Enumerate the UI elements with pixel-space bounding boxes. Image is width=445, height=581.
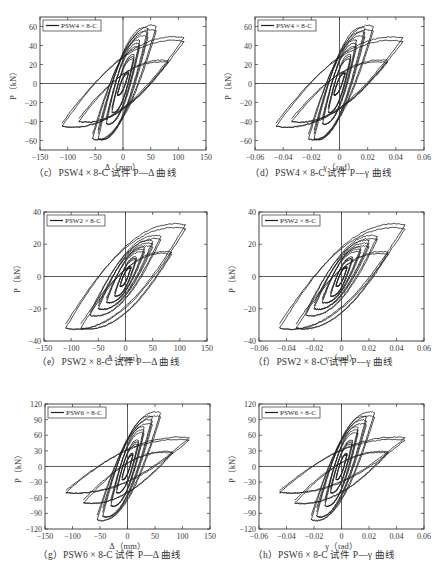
y-tick-label: 40 — [248, 208, 256, 217]
x-tick-label: 0 — [124, 344, 128, 353]
chart-panel-e: −150−100−50050100150−40−2002040Δ（mm）P（kN… — [44, 212, 207, 341]
y-tick-label: −20 — [243, 305, 256, 314]
y-tick-label: 30 — [34, 447, 42, 456]
x-tick-label: 150 — [201, 344, 213, 353]
legend-label: PSW4 × 8-C — [61, 22, 97, 30]
x-tick-label: 0 — [338, 153, 342, 162]
y-tick-label: 0 — [37, 273, 41, 282]
y-tick-label: 0 — [252, 463, 256, 472]
y-tick-label: −30 — [29, 478, 42, 487]
caption-c: （c）PSW4 × 8-C 试件 P—Δ 曲线 — [34, 165, 177, 179]
x-tick-label: −100 — [59, 153, 76, 162]
x-tick-label: 0.04 — [390, 344, 404, 353]
y-tick-label: 20 — [248, 240, 256, 249]
legend: PSW2 × 8-C — [47, 215, 105, 226]
x-tick-label: 100 — [174, 344, 186, 353]
y-tick-label: 40 — [244, 42, 252, 51]
x-tick-label: 0.06 — [417, 153, 431, 162]
x-tick-label: −0.04 — [274, 153, 293, 162]
x-tick-label: 0.06 — [417, 532, 431, 541]
y-tick-label: −60 — [24, 137, 37, 146]
x-tick-label: −0.04 — [277, 532, 296, 541]
x-tick-label: 0.02 — [361, 153, 375, 162]
y-tick-label: 20 — [33, 240, 41, 249]
chart-panel-g: −150−100−50050100150−120−90−60−300306090… — [45, 404, 210, 529]
x-tick-label: −0.04 — [277, 344, 296, 353]
caption-f: （f）PSW2 × 8-C 试件 P—γ 曲线 — [253, 354, 393, 368]
x-tick-label: −0.02 — [305, 532, 324, 541]
y-tick-label: −30 — [243, 478, 256, 487]
x-tick-label: 50 — [149, 344, 157, 353]
caption-d: （d）PSW4 × 8-C 试件 P—γ 曲线 — [250, 165, 392, 179]
x-tick-label: 0 — [121, 153, 125, 162]
legend: PSW4 × 8-C — [43, 20, 101, 31]
y-tick-label: 20 — [29, 61, 37, 70]
y-tick-label: 60 — [34, 431, 42, 440]
y-tick-label: 90 — [248, 416, 256, 425]
y-tick-label: 0 — [252, 273, 256, 282]
y-tick-label: 0 — [38, 463, 42, 472]
y-tick-label: 60 — [248, 431, 256, 440]
y-axis-label: P（kN） — [12, 260, 22, 293]
x-tick-label: −50 — [92, 344, 105, 353]
y-axis-label: P（kN） — [13, 450, 23, 483]
y-tick-label: 90 — [34, 416, 42, 425]
y-axis-label: P（kN） — [223, 67, 233, 100]
x-tick-label: 0 — [340, 344, 344, 353]
x-tick-label: 50 — [147, 153, 155, 162]
y-axis-label: P（kN） — [8, 67, 18, 100]
x-tick-label: 100 — [177, 532, 189, 541]
caption-h: （h）PSW6 × 8-C 试件 P—γ 曲线 — [253, 547, 395, 561]
x-tick-label: 100 — [172, 153, 184, 162]
x-tick-label: −0.02 — [305, 344, 324, 353]
x-tick-label: −100 — [64, 532, 81, 541]
legend-label: PSW4 × 8-C — [276, 22, 312, 30]
legend: PSW2 × 8-C — [262, 215, 320, 226]
x-tick-label: −150 — [32, 153, 49, 162]
y-tick-label: 120 — [244, 400, 256, 409]
chart-panel-d: −0.06−0.04−0.0200.020.040.06−60−40−20020… — [255, 17, 424, 150]
y-tick-label: 40 — [29, 42, 37, 51]
x-tick-label: 150 — [200, 153, 212, 162]
x-tick-label: 150 — [204, 532, 216, 541]
y-tick-label: −40 — [28, 337, 41, 346]
y-tick-label: −60 — [239, 137, 252, 146]
x-tick-label: 0.02 — [362, 344, 376, 353]
legend-label: PSW6 × 8-C — [66, 409, 102, 417]
y-tick-label: 60 — [29, 23, 37, 32]
y-tick-label: −120 — [25, 525, 42, 534]
x-tick-label: −50 — [89, 153, 102, 162]
y-tick-label: −40 — [239, 118, 252, 127]
y-tick-label: 40 — [33, 208, 41, 217]
y-tick-label: 0 — [33, 80, 37, 89]
y-tick-label: 120 — [30, 400, 42, 409]
legend-label: PSW6 × 8-C — [280, 409, 316, 417]
y-tick-label: −20 — [28, 305, 41, 314]
x-tick-label: 50 — [151, 532, 159, 541]
y-tick-label: −90 — [29, 509, 42, 518]
x-tick-label: 0.04 — [389, 153, 403, 162]
y-tick-label: 60 — [244, 23, 252, 32]
legend-label: PSW2 × 8-C — [65, 217, 101, 225]
y-tick-label: −90 — [243, 509, 256, 518]
x-tick-label: 0.06 — [417, 344, 431, 353]
x-tick-label: 0 — [126, 532, 130, 541]
y-tick-label: 20 — [244, 61, 252, 70]
caption-e: （e）PSW2 × 8-C 试件 P—Δ 曲线 — [37, 354, 180, 368]
x-tick-label: −0.06 — [246, 153, 265, 162]
chart-panel-f: −0.06−0.04−0.0200.020.040.06−40−2002040γ… — [259, 212, 424, 341]
y-tick-label: −40 — [24, 118, 37, 127]
legend: PSW4 × 8-C — [258, 20, 316, 31]
y-tick-label: 30 — [248, 447, 256, 456]
x-tick-label: 0 — [340, 532, 344, 541]
legend-label: PSW2 × 8-C — [280, 217, 316, 225]
x-tick-label: −50 — [94, 532, 107, 541]
y-axis-label: P（kN） — [227, 260, 237, 293]
chart-panel-c: −150−100−50050100150−60−40−200204060Δ（mm… — [40, 17, 206, 150]
chart-panel-h: −0.06−0.04−0.0200.020.040.06−120−90−60−3… — [259, 404, 424, 529]
y-tick-label: −40 — [243, 337, 256, 346]
x-tick-label: −100 — [63, 344, 80, 353]
x-tick-label: −0.02 — [302, 153, 321, 162]
legend: PSW6 × 8-C — [262, 407, 320, 418]
y-tick-label: −20 — [24, 99, 37, 108]
